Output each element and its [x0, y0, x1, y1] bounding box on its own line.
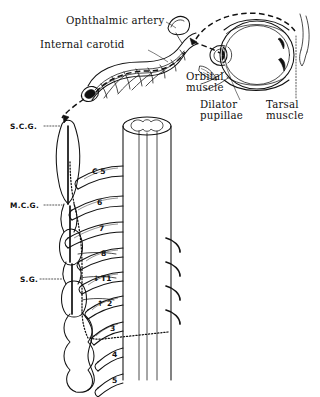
- lower-thoracic-chain-right: [86, 316, 94, 390]
- nerve-root-c7: [65, 222, 123, 248]
- label-tarsal-muscle-line1: Tarsal: [266, 99, 299, 110]
- dilator-pupillae-upper: [222, 50, 225, 56]
- label-dilator-pupillae-line2: pupillae: [200, 110, 243, 121]
- dotted-ramus-t3: [90, 332, 168, 339]
- nerve-root-t4: [95, 348, 123, 371]
- t4-cut-end: [95, 362, 98, 371]
- segment-label-t1: T1: [101, 274, 111, 283]
- label-middle-cervical-ganglion: M.C.G.: [10, 201, 39, 210]
- spinal-cord-group: [123, 117, 171, 380]
- segment-label-c7: 7: [99, 224, 104, 233]
- t4-upper: [98, 348, 123, 362]
- label-dilator-pupillae-line1: Dilator: [200, 99, 237, 110]
- plexus-diag-4: [146, 70, 165, 86]
- label-orbital-muscle-line2: muscle: [186, 82, 224, 93]
- fibre-along-carotid: [96, 52, 185, 92]
- nerve-root-t5: [95, 374, 123, 397]
- c7-lower: [68, 232, 123, 248]
- right-side-rami: [166, 238, 180, 324]
- figure-canvas: Ophthalmic artery Internal carotid Orbit…: [0, 0, 320, 397]
- chain-mcg-to-sg-left: [63, 262, 66, 284]
- t5-cut-end: [95, 388, 98, 397]
- t5-upper: [98, 374, 123, 388]
- anatomical-figure-sympathetic-eye-pathway: Ophthalmic artery Internal carotid Orbit…: [0, 0, 320, 397]
- lateral-canthus-strand-1: [300, 14, 303, 50]
- tarsal-muscle-lower: [279, 58, 286, 71]
- label-superior-cervical-ganglion: S.C.G.: [10, 122, 37, 131]
- tarsal-muscle-upper: [278, 38, 284, 49]
- right-ramus-3: [166, 310, 180, 324]
- segment-label-c6: 6: [97, 198, 102, 207]
- middle-cervical-ganglion: [60, 229, 83, 265]
- label-ophthalmic-artery: Ophthalmic artery: [66, 15, 164, 26]
- sclera-inner-line: [225, 26, 290, 85]
- segment-label-c8: 8: [101, 249, 106, 258]
- chain-mcg-to-sg-right: [78, 262, 81, 284]
- carotid-lower-border: [92, 44, 197, 100]
- nerve-root-t3: [91, 322, 123, 345]
- stellate-ganglion: [62, 281, 87, 317]
- fibre-carotid-to-scg: [62, 99, 84, 118]
- right-ramus-4: [166, 238, 180, 252]
- segment-label-t3: 3: [110, 324, 115, 333]
- lateral-canthus-tip: [300, 50, 307, 66]
- lateral-canthus-strand-2: [306, 16, 309, 52]
- label-orbital-muscle-line1: Orbital: [186, 71, 224, 82]
- segment-label-t2: 2: [107, 299, 112, 308]
- c8-lower: [80, 257, 123, 270]
- c7-cut-end: [65, 238, 68, 248]
- label-tarsal-muscle-line2: muscle: [266, 110, 304, 121]
- spinal-nerve-roots: [65, 166, 123, 371]
- chain-scg-to-mcg-left: [61, 204, 64, 232]
- fibre-to-tarsal-muscle: [196, 13, 295, 39]
- lower-thoracic-chain-left: [64, 312, 94, 392]
- segment-arrow-t1: ↓: [93, 274, 99, 283]
- dilator-pupillae-lower: [222, 55, 225, 60]
- segment-label-t4: 4: [112, 350, 117, 359]
- nerve-root-c8: [77, 248, 123, 270]
- c6-lower: [72, 206, 123, 220]
- segment-label-c5: C 5: [92, 167, 106, 176]
- preganglionic-fibres: [70, 160, 168, 339]
- right-ramus-1: [166, 262, 180, 276]
- nerve-root-t2: [85, 296, 123, 319]
- lens-outline: [228, 47, 232, 63]
- c5-lower: [78, 176, 123, 189]
- right-ramus-2: [166, 286, 180, 300]
- grey-matter-butterfly: [131, 120, 163, 132]
- label-internal-carotid: Internal carotid: [40, 39, 125, 50]
- label-stellate-ganglion: S.G.: [20, 275, 38, 284]
- segment-arrow-t2: ↑: [97, 299, 103, 308]
